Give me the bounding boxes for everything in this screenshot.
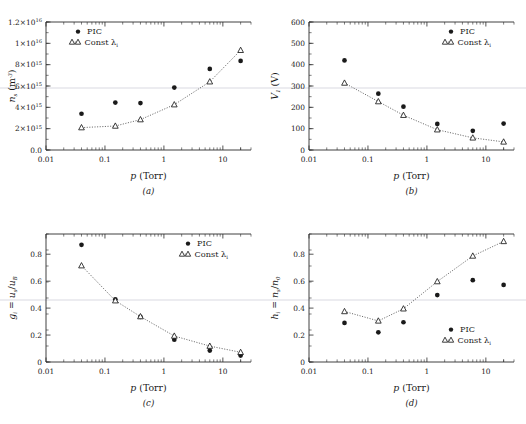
y-axis-title: V1 (V) (269, 72, 281, 99)
data-point-const-lambda (171, 333, 177, 338)
data-point-pic (470, 278, 475, 283)
data-point-pic (207, 348, 212, 353)
y-tick-label: 600 (291, 18, 305, 27)
x-tick-label: 1 (425, 155, 430, 164)
legend-label-pic: PIC (197, 238, 212, 248)
data-point-const-lambda (207, 79, 213, 84)
x-tick-label: 0.01 (301, 367, 317, 376)
data-point-const-lambda (79, 125, 85, 130)
legend-marker-pic (76, 29, 80, 33)
x-tick-label: 1 (162, 367, 167, 376)
y-tick-label: 300 (291, 82, 305, 91)
data-point-pic (501, 121, 506, 126)
legend-label-pic: PIC (460, 26, 475, 36)
x-tick-label: 0.1 (362, 367, 374, 376)
data-point-const-lambda (434, 278, 440, 283)
y-tick-label: 0 (37, 358, 42, 367)
data-point-pic (238, 59, 243, 64)
legend: PICConst λi (179, 238, 228, 260)
legend: PICConst λi (69, 26, 118, 48)
data-point-const-lambda (342, 308, 348, 313)
series-line-const-lambda (82, 50, 241, 127)
legend-marker-const-a (442, 337, 447, 342)
y-tick-label: 0.0 (30, 146, 42, 155)
panel-c-plot: 0.010.1110p (Torr)(c)00.20.40.60.8gi = u… (0, 212, 263, 424)
legend-marker-pic (449, 327, 453, 331)
data-point-const-lambda (138, 117, 144, 122)
x-axis-title: p (Torr) (393, 170, 429, 181)
x-tick-label: 10 (218, 367, 228, 376)
y-tick-label: 500 (291, 39, 305, 48)
y-tick-label: 4×1015 (15, 102, 42, 112)
data-point-pic (435, 293, 440, 298)
data-point-const-lambda (401, 112, 407, 117)
legend: PICConst λi (442, 324, 491, 346)
data-point-const-lambda (501, 238, 507, 243)
panel-d: 0.010.1110p (Torr)(d)00.20.40.60.8hi = n… (263, 212, 526, 424)
legend-marker-pic (186, 241, 190, 245)
data-point-pic (113, 100, 118, 105)
data-point-const-lambda (207, 343, 213, 348)
data-point-pic (470, 128, 475, 133)
x-axis-title: p (Torr) (130, 170, 166, 181)
legend-marker-const-a (442, 39, 447, 44)
data-point-const-lambda (238, 349, 244, 354)
legend-label-const-lambda: Const λi (458, 37, 492, 48)
panel-b-plot: 0.010.1110p (Torr)(b)0100200300400500600… (263, 0, 526, 212)
legend-label-const-lambda: Const λi (458, 335, 492, 346)
legend-marker-const-a (179, 251, 184, 256)
data-point-const-lambda (470, 253, 476, 258)
data-point-const-lambda (401, 306, 407, 311)
data-point-pic (138, 101, 143, 106)
y-tick-label: 200 (291, 103, 305, 112)
data-point-pic (342, 321, 347, 326)
panel-c: 0.010.1110p (Torr)(c)00.20.40.60.8gi = u… (0, 212, 263, 424)
x-tick-label: 0.01 (301, 155, 317, 164)
figure-4-panel-grid: 0.010.1110p (Torr)(a)0.02×10154×10156×10… (0, 0, 526, 424)
legend-marker-const-b (185, 251, 190, 256)
data-point-const-lambda (171, 102, 177, 107)
legend: PICConst λi (442, 26, 491, 48)
data-point-const-lambda (375, 98, 381, 103)
data-point-pic (79, 242, 84, 247)
x-tick-label: 0.1 (99, 367, 111, 376)
data-point-pic (376, 91, 381, 96)
panel-a-plot: 0.010.1110p (Torr)(a)0.02×10154×10156×10… (0, 0, 263, 212)
panel-caption: (a) (143, 186, 155, 196)
legend-marker-const-b (75, 39, 80, 44)
data-point-pic (376, 330, 381, 335)
x-tick-label: 0.1 (362, 155, 374, 164)
panel-caption: (c) (143, 398, 155, 408)
data-point-const-lambda (238, 47, 244, 52)
data-point-const-lambda (79, 263, 85, 268)
x-tick-label: 10 (218, 155, 228, 164)
data-point-const-lambda (112, 123, 118, 128)
panel-a: 0.010.1110p (Torr)(a)0.02×10154×10156×10… (0, 0, 263, 212)
y-tick-label: 0 (300, 358, 305, 367)
x-axis-title: p (Torr) (130, 382, 166, 393)
legend-marker-const-b (448, 337, 453, 342)
y-tick-label: 0.6 (293, 277, 305, 286)
y-tick-label: 2×1015 (15, 124, 42, 134)
panel-b: 0.010.1110p (Torr)(b)0100200300400500600… (263, 0, 526, 212)
y-tick-label: 0.8 (293, 250, 305, 259)
x-tick-label: 0.01 (38, 367, 54, 376)
data-point-pic (401, 320, 406, 325)
y-axis-title: gi = us/uB (6, 276, 18, 320)
panel-caption: (b) (405, 186, 417, 196)
y-tick-label: 0.6 (30, 277, 42, 286)
legend-label-const-lambda: Const λi (85, 37, 119, 48)
y-tick-label: 0.2 (30, 331, 42, 340)
x-tick-label: 1 (162, 155, 167, 164)
y-tick-label: 1.2×1016 (8, 17, 42, 27)
panel-d-plot: 0.010.1110p (Torr)(d)00.20.40.60.8hi = n… (263, 212, 526, 424)
legend-label-pic: PIC (87, 26, 102, 36)
x-tick-label: 1 (425, 367, 430, 376)
x-tick-label: 10 (481, 155, 491, 164)
y-axis-title: hi = ns/n0 (269, 276, 281, 320)
data-point-const-lambda (342, 80, 348, 85)
y-tick-label: 6×1015 (15, 81, 42, 91)
legend-marker-const-a (69, 39, 74, 44)
x-tick-label: 0.01 (38, 155, 54, 164)
series-line-const-lambda (345, 83, 504, 142)
